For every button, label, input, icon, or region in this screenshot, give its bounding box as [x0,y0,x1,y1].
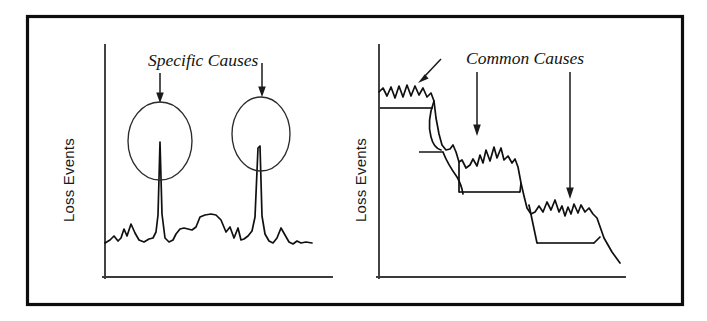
right-transition-stroke-4 [520,183,521,192]
right-annotation-arrow-diagonal [418,59,441,83]
common-causes-panel: Loss Events Common Causes [352,45,625,278]
right-annotation-arrow-1 [473,72,481,136]
right-annotation-arrow-2 [566,72,574,199]
specific-causes-callout: Specific Causes [148,50,259,70]
left-annotation-arrow-1 [156,73,164,103]
left-annotation-arrow-2 [258,63,266,97]
loss-events-figure: Loss Events Specific Causes [0,0,707,321]
common-causes-callout: Common Causes [466,48,584,68]
specific-causes-panel: Loss Events Specific Causes [60,45,332,278]
right-y-axis-label: Loss Events [352,138,369,222]
right-transition-stroke-6 [594,237,600,243]
right-transition-stroke-2 [443,152,463,194]
left-loss-events-curve [105,142,312,244]
right-loss-events-curve [379,85,620,263]
figure-canvas: Loss Events Specific Causes [0,0,707,321]
left-y-axis-label: Loss Events [60,138,77,222]
